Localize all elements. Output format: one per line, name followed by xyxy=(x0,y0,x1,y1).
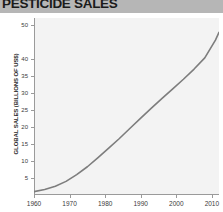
y-axis-title: GLOBAL SALES (BILLIONS OF US$) xyxy=(13,44,19,164)
x-tick-label: 2000 xyxy=(169,200,183,207)
x-tick-label: 1960 xyxy=(27,200,41,207)
y-tick-label: 5 xyxy=(25,175,28,181)
x-tick-label: 2010 xyxy=(205,200,219,207)
data-series-line xyxy=(34,18,219,195)
x-tick-label: 1980 xyxy=(98,200,112,207)
y-tick-label: 35 xyxy=(21,73,28,79)
y-tick-label: 15 xyxy=(21,141,28,147)
page-title: PESTICIDE SALES xyxy=(2,0,118,11)
x-tick-mark xyxy=(70,195,71,198)
x-tick-mark xyxy=(212,195,213,198)
x-tick-mark xyxy=(105,195,106,198)
plot-container: GLOBAL SALES (BILLIONS OF US$) 510152025… xyxy=(0,13,223,212)
x-tick-mark xyxy=(176,195,177,198)
y-tick-label: 10 xyxy=(21,158,28,164)
x-tick-label: 1990 xyxy=(133,200,147,207)
y-tick-label: 20 xyxy=(21,124,28,130)
y-tick-label: 30 xyxy=(21,90,28,96)
x-tick-mark xyxy=(34,195,35,198)
y-tick-label: 25 xyxy=(21,107,28,113)
x-tick-label: 1970 xyxy=(62,200,76,207)
y-tick-label: 40 xyxy=(21,56,28,62)
title-banner: PESTICIDE SALES xyxy=(0,0,223,13)
x-tick-mark xyxy=(141,195,142,198)
pesticide-sales-chart: PESTICIDE SALES GLOBAL SALES (BILLIONS O… xyxy=(0,0,223,212)
y-tick-label: 50 xyxy=(21,22,28,28)
